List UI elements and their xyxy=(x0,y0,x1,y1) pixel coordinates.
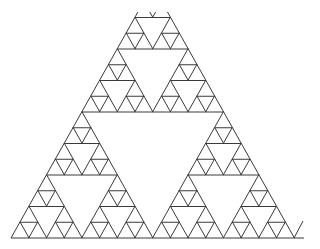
sierpinski-lines xyxy=(11,0,294,238)
extra-stroke xyxy=(294,221,303,238)
triangle-mesh xyxy=(11,0,294,238)
top-clip-mask xyxy=(0,0,320,12)
sierpinski-triangle-figure xyxy=(0,0,320,249)
